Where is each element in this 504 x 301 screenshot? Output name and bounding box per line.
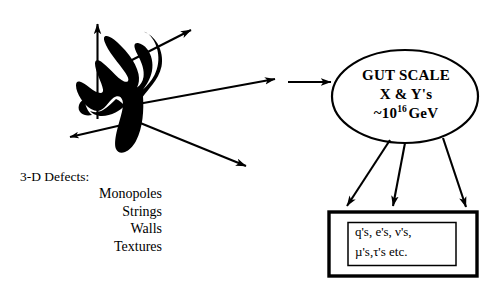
gut-scale-line-1: GUT SCALE [340, 66, 472, 85]
diagram-canvas: 3-D Defects: Monopoles Strings Walls Tex… [0, 0, 504, 301]
particle-line-1: q's, e's, ν's, [355, 222, 456, 242]
arrow-right-long [138, 79, 275, 104]
defect-item-textures: Textures [20, 238, 162, 256]
defects-heading: 3-D Defects: [20, 168, 220, 185]
gut-scale-line-3: ~1016 GeV [340, 104, 472, 123]
gut-energy-unit: GeV [409, 105, 439, 121]
arrow-gut-to-box-middle [393, 143, 405, 206]
ink-blot-defect-region [76, 32, 162, 153]
gut-scale-line-2: X & Y's [340, 85, 472, 104]
gut-energy-mantissa: ~10 [374, 105, 397, 121]
arrow-gut-to-box-right [443, 138, 466, 207]
arrow-down-right [128, 118, 246, 166]
defect-item-walls: Walls [20, 220, 162, 238]
arrow-down-left [70, 125, 122, 137]
defects-items: Monopoles Strings Walls Textures [20, 185, 162, 255]
arrow-gut-to-box-left [347, 140, 390, 206]
defect-item-monopoles: Monopoles [20, 185, 162, 203]
particle-box-label: q's, e's, ν's, µ's,τ's etc. [350, 222, 456, 262]
defect-item-strings: Strings [20, 203, 162, 221]
particle-line-2: µ's,τ's etc. [355, 242, 456, 262]
gut-energy-exponent: 16 [397, 104, 407, 114]
gut-scale-label: GUT SCALE X & Y's ~1016 GeV [340, 66, 472, 123]
defects-list: 3-D Defects: Monopoles Strings Walls Tex… [20, 168, 220, 255]
